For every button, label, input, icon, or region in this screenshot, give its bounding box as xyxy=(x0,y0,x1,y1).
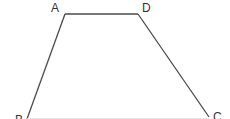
vertex-label-c: C xyxy=(213,111,222,119)
vertex-label-d: D xyxy=(142,2,151,14)
vertex-label-a: A xyxy=(51,2,59,14)
vertex-label-b: B xyxy=(15,114,23,119)
trapezoid-diagram xyxy=(0,0,230,119)
edge-dc xyxy=(138,14,209,117)
edge-ab xyxy=(27,14,65,119)
